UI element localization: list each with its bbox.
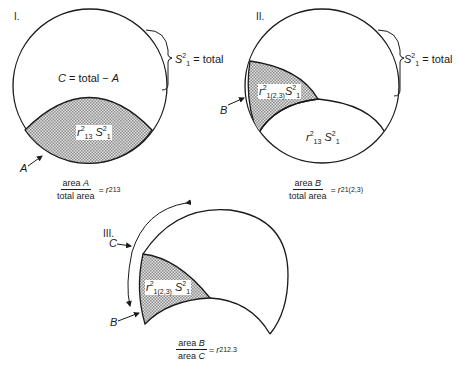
panel-1-shapes [13,9,172,166]
formula-2: area Btotal area = r21(2,3) [287,178,363,201]
venn-diagram-figure: I. C = total − A r213 S21 S21 = total A … [0,0,459,371]
shaded-label-2: r21(2,3)S21 [258,84,301,99]
panel-2-numeral: II. [256,11,264,22]
brace-label-2: S21 = total [404,52,452,67]
panel-3-shapes [117,203,288,334]
lower-region-label-2: r213 S21 [306,130,340,145]
shaded-label-1: r213 S21 [76,125,112,140]
arrow-c [117,244,131,246]
arrow-label-a: A [20,163,27,174]
formula-3: area Barea C = r212.3 [176,338,237,361]
arrow-label-b-2: B [220,105,227,116]
region-c-label: C = total − A [58,73,119,84]
arrow-b-3 [118,313,139,321]
arrow-label-b-3: B [110,317,117,328]
formula-1: area Atotal area = r213 [55,178,121,201]
arrow-a [28,156,42,166]
brace-label-1: S21 = total [175,52,223,67]
panel-1-numeral: I. [14,11,20,22]
arrow-label-c: C [109,238,117,249]
shaded-label-3: r21(2,3) S21 [145,280,191,295]
arrow-b-2 [228,98,244,105]
